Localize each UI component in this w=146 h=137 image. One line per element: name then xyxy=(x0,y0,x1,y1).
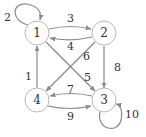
node-label-4: 4 xyxy=(33,93,41,107)
edge-label-1: 1 xyxy=(25,70,32,83)
edge-1-to-2: 3 xyxy=(49,12,91,29)
node-label-3: 3 xyxy=(100,93,108,107)
edge-3-to-4: 7 xyxy=(50,83,92,96)
edge-label-2: 2 xyxy=(4,11,11,24)
node-label-1: 1 xyxy=(33,26,41,40)
edge-label-10: 10 xyxy=(125,108,139,121)
edge-label-5: 5 xyxy=(84,71,91,84)
edge-4-to-3: 9 xyxy=(48,106,91,123)
edge-label-9: 9 xyxy=(67,110,74,123)
edge-label-3: 3 xyxy=(67,12,74,25)
node-2: 2 xyxy=(92,21,116,45)
edge-label-7: 7 xyxy=(67,83,74,96)
node-label-2: 2 xyxy=(100,26,108,40)
edge-2-to-3: 8 xyxy=(104,46,121,88)
edge-label-6: 6 xyxy=(83,50,90,63)
edge-label-8: 8 xyxy=(114,61,121,74)
edge-4-to-1: 1 xyxy=(25,46,37,88)
node-4: 4 xyxy=(25,88,49,112)
graph-diagram: 1 2 3 4 5 6 7 xyxy=(0,0,146,137)
edge-label-4: 4 xyxy=(67,40,74,53)
node-3: 3 xyxy=(92,88,116,112)
node-1: 1 xyxy=(25,21,49,45)
